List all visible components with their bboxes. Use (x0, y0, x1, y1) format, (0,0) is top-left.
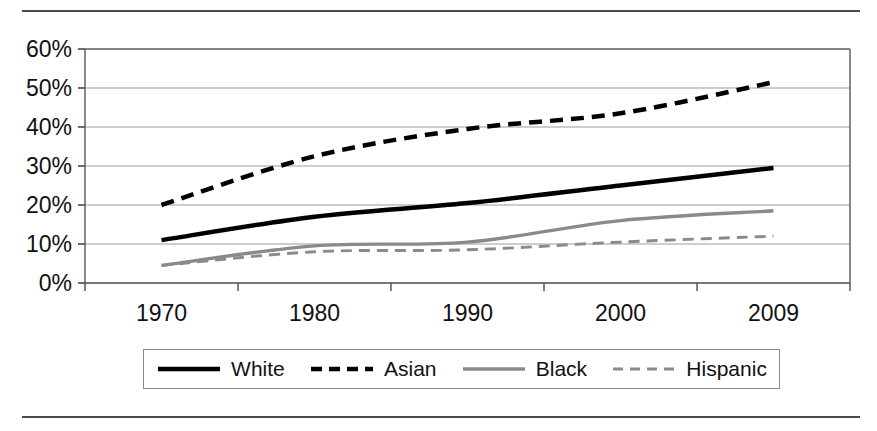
x-axis-tick-label: 2009 (748, 300, 799, 326)
x-axis-tick-label: 2000 (595, 300, 646, 326)
series-line-asian (162, 82, 774, 205)
legend-swatch-asian (309, 362, 375, 376)
y-axis-tick-label: 60% (26, 36, 72, 62)
legend-item-hispanic[interactable]: Hispanic (611, 357, 767, 381)
legend-swatch-black (461, 362, 527, 376)
y-axis-tick-label: 20% (26, 192, 72, 218)
legend-item-asian[interactable]: Asian (309, 357, 437, 381)
legend-label-asian: Asian (384, 357, 437, 381)
legend-label-hispanic: Hispanic (686, 357, 767, 381)
legend-swatch-white (156, 362, 222, 376)
x-axis-tick-label: 1980 (289, 300, 340, 326)
figure: 0%10%20%30%40%50%60%19701980199020002009… (0, 0, 877, 431)
series-line-white (162, 168, 774, 240)
chart-legend: White Asian Black Hispanic (143, 349, 780, 389)
legend-label-black: Black (536, 357, 587, 381)
y-axis-tick-label: 0% (39, 270, 72, 296)
x-axis-tick-label: 1970 (136, 300, 187, 326)
y-axis-tick-label: 10% (26, 231, 72, 257)
legend-swatch-hispanic (611, 362, 677, 376)
legend-item-white[interactable]: White (156, 357, 285, 381)
y-axis-tick-label: 50% (26, 75, 72, 101)
legend-label-white: White (231, 357, 285, 381)
y-axis-tick-label: 30% (26, 153, 72, 179)
y-axis-tick-label: 40% (26, 114, 72, 140)
legend-item-black[interactable]: Black (461, 357, 587, 381)
x-axis-tick-label: 1990 (442, 300, 493, 326)
